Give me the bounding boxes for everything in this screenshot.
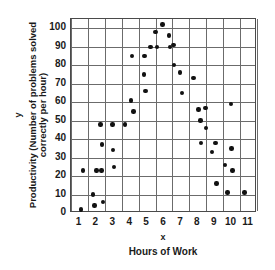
y-tick-label: 70 [40,78,66,88]
data-point [191,76,195,80]
data-point [100,142,104,146]
gridline-vertical [172,19,173,211]
data-point [92,203,96,207]
gridline-vertical [206,19,207,211]
x-axis-variable-label: x [70,232,256,242]
gridline-horizontal [71,176,255,177]
data-point [210,150,214,154]
data-point [111,148,115,152]
data-point [196,107,200,111]
gridline-horizontal [71,65,255,66]
scatter-plot-figure: y Productivity (Number of problems solve… [0,0,275,270]
data-point [98,122,102,126]
gridline-vertical [122,19,123,211]
gridline-horizontal [71,47,255,48]
data-point [229,102,233,106]
y-tick-label: 90 [40,41,66,51]
gridline-horizontal [71,28,255,29]
y-tick-label: 60 [40,96,66,106]
data-point [203,106,207,110]
data-point [153,30,157,34]
data-point [204,126,208,130]
y-tick-label: 50 [40,115,66,125]
data-point [242,190,246,194]
data-point [143,89,147,93]
gridline-horizontal [71,102,255,103]
data-point [214,181,218,185]
data-point [199,141,203,145]
y-tick-label: 10 [40,189,66,199]
data-point [229,146,233,150]
y-tick-label: 30 [40,152,66,162]
data-point [81,168,85,172]
x-axis-title: Hours of Work [70,246,256,257]
data-point [171,43,175,47]
data-point [129,98,133,102]
gridline-vertical [105,19,106,211]
data-point [131,109,135,113]
x-axis-tick-labels: 1234567891011 [70,216,256,230]
y-tick-label: 20 [40,170,66,180]
gridline-vertical [189,19,190,211]
gridline-horizontal [71,158,255,159]
gridline-horizontal [71,139,255,140]
data-point [172,63,176,67]
data-point [79,207,83,211]
data-point [110,122,114,126]
gridline-vertical [257,19,258,211]
data-point [160,22,164,26]
data-point [91,192,95,196]
y-tick-label: 0 [40,207,66,217]
gridline-vertical [139,19,140,211]
plot-area [70,18,256,212]
data-point [167,33,171,37]
data-point [225,190,229,194]
data-point [180,91,184,95]
data-point [123,122,127,126]
data-point [178,70,182,74]
y-tick-label: 80 [40,59,66,69]
data-point [112,165,116,169]
gridline-vertical [240,19,241,211]
data-point [142,54,146,58]
data-point [155,45,159,49]
data-point [223,163,227,167]
data-point [148,45,152,49]
gridline-vertical [88,19,89,211]
y-tick-label: 40 [40,133,66,143]
y-tick-label: 100 [40,22,66,32]
gridline-horizontal [71,84,255,85]
data-point [142,72,146,76]
data-point [99,168,103,172]
data-point [130,54,134,58]
data-point [213,141,217,145]
data-point [230,168,234,172]
y-axis-variable-label: y [14,113,23,118]
gridline-vertical [223,19,224,211]
data-point [198,118,202,122]
data-point [94,168,98,172]
y-axis-tick-labels: 0102030405060708090100 [38,18,66,212]
gridline-vertical [71,19,72,211]
x-tick-label: 11 [236,216,260,228]
